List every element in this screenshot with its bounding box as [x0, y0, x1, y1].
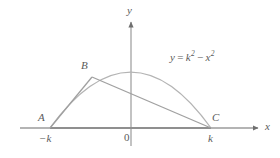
equation-minus: − [195, 51, 206, 63]
tick-label-k: k [208, 133, 213, 144]
point-label-b: B [81, 60, 88, 71]
curve-equation-label: y=k2−x2 [170, 50, 215, 63]
segment-bc [92, 77, 211, 128]
point-label-a: A [38, 112, 45, 123]
parabola-triangle-figure: y x 0 A B C −k k y=k2−x2 [0, 0, 280, 158]
x-axis-label: x [265, 121, 270, 132]
y-axis-label: y [127, 5, 132, 16]
point-label-c: C [212, 112, 219, 123]
tick-label-minus-k: −k [39, 133, 51, 144]
segment-ab [50, 77, 92, 128]
origin-label: 0 [124, 132, 130, 143]
equation-x-exponent: 2 [211, 49, 215, 58]
equation-equals: = [175, 51, 186, 63]
